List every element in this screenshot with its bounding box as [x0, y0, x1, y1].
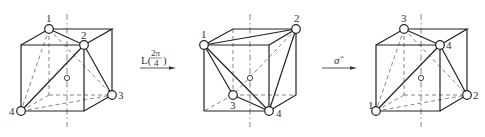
- center-point: [418, 75, 423, 80]
- vertex-4: [436, 41, 445, 50]
- vertex-label-2: 2: [294, 12, 300, 24]
- vertex-label-2: 2: [473, 89, 479, 101]
- vertex-label-4: 4: [446, 39, 452, 51]
- center-point: [247, 75, 252, 80]
- vertex-label-1: 1: [46, 12, 52, 24]
- vertex-label-1: 1: [368, 99, 374, 111]
- cube-3: 1 2 3 4: [368, 12, 479, 127]
- operation-label-numerator: 2π: [151, 48, 161, 58]
- tetra-edge-3-4: [233, 95, 269, 111]
- rotation-operation: L( 2π 4 ): [140, 48, 176, 70]
- vertex-1: [45, 25, 54, 34]
- vertex-4: [265, 107, 274, 116]
- tetra-edge-3-4: [404, 29, 440, 45]
- hidden-edge: [204, 95, 233, 111]
- tetra-edge-4-1: [376, 45, 440, 111]
- tetra-edge-4-2: [440, 45, 467, 95]
- vertex-label-2: 2: [81, 29, 87, 41]
- vertex-1: [200, 41, 209, 50]
- tetra-edge-1-4: [204, 45, 269, 111]
- vertex-3: [400, 25, 409, 34]
- vertex-4: [17, 107, 26, 116]
- symmetry-diagram: 1 2 3 4 L( 2π 4 ) 1 2: [0, 0, 485, 137]
- cube-1: 1 2 3 4: [9, 12, 124, 127]
- vertex-2: [292, 25, 301, 34]
- operation-label-sigma: σ̂: [334, 54, 344, 66]
- tetra-edge-2-4: [269, 29, 296, 111]
- vertex-label-1: 1: [201, 28, 207, 40]
- arrow-head-icon: [169, 66, 176, 69]
- tetra-edge-1-2: [49, 29, 84, 45]
- operation-label-denominator: 4: [154, 58, 159, 68]
- vertex-label-3: 3: [401, 12, 407, 24]
- vertex-3: [229, 91, 238, 100]
- arrow-head-icon: [350, 66, 357, 69]
- vertex-2: [80, 41, 89, 50]
- vertex-2: [463, 91, 472, 100]
- tetra-hidden-edge-3-2: [404, 29, 467, 95]
- reflection-operation: σ̂: [322, 54, 357, 70]
- vertex-label-3: 3: [230, 99, 236, 111]
- center-point: [64, 75, 69, 80]
- tetra-hidden-edge-3-1: [376, 29, 404, 111]
- operation-label-close: ): [163, 54, 167, 67]
- vertex-label-3: 3: [118, 89, 124, 101]
- vertex-label-4: 4: [276, 107, 282, 119]
- vertex-label-4: 4: [9, 105, 15, 117]
- tetra-hidden-edge-1-4: [21, 29, 49, 111]
- tetra-edge-2-4: [21, 45, 84, 111]
- cube-2: 1 2 3 4: [200, 12, 301, 127]
- vertex-3: [108, 91, 117, 100]
